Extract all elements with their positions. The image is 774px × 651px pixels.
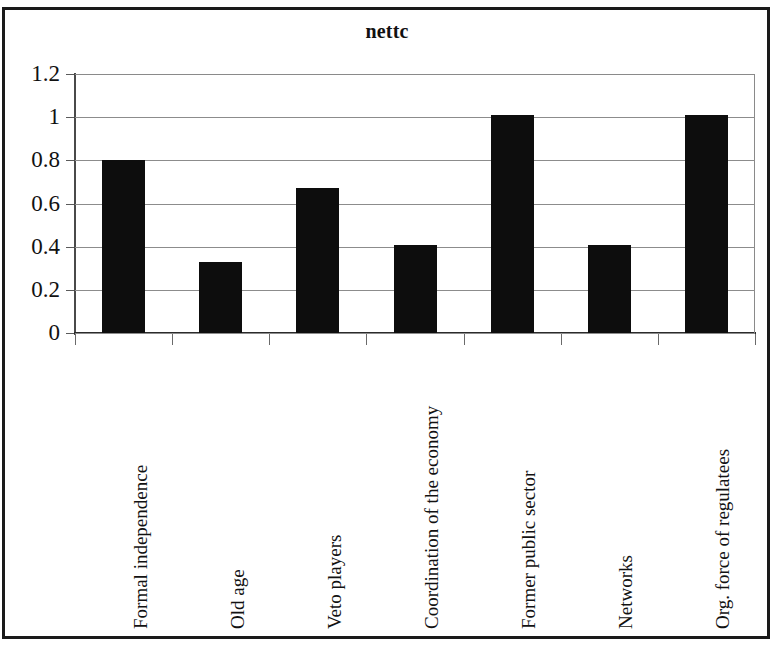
x-tick-mark — [269, 334, 270, 345]
plot-area — [75, 74, 755, 333]
x-tick-mark — [75, 334, 76, 345]
y-tick-label: 1.2 — [0, 62, 60, 85]
chart-title: nettc — [0, 20, 774, 43]
y-tick-label: 0 — [0, 321, 60, 344]
bar — [588, 245, 631, 333]
y-tick-label: 0.2 — [0, 278, 60, 301]
x-tick-mark — [658, 334, 659, 345]
y-tick-label: 0.6 — [0, 192, 60, 215]
bar — [199, 262, 242, 333]
x-axis-label: Org. force of regulatees — [713, 449, 732, 629]
bar — [685, 115, 728, 333]
x-tick-mark — [755, 334, 756, 345]
bar — [296, 188, 339, 333]
x-axis-label: Veto players — [325, 535, 344, 629]
x-tick-mark — [561, 334, 562, 345]
gridline — [75, 204, 755, 205]
gridline — [75, 74, 755, 75]
x-axis-label: Former public sector — [519, 471, 538, 629]
y-tick-label: 0.8 — [0, 148, 60, 171]
x-axis-label: Networks — [616, 555, 635, 629]
y-tick-label: 1 — [0, 105, 60, 128]
x-axis-label: Formal independence — [131, 465, 150, 629]
y-tick-label: 0.4 — [0, 235, 60, 258]
bar — [102, 160, 145, 333]
gridline — [75, 117, 755, 118]
bar — [394, 245, 437, 333]
x-tick-mark — [366, 334, 367, 345]
x-axis-label: Coordination of the economy — [422, 406, 441, 629]
bar — [491, 115, 534, 333]
x-tick-mark — [172, 334, 173, 345]
x-axis-label: Old age — [228, 569, 247, 629]
gridline — [75, 333, 755, 334]
gridline — [75, 160, 755, 161]
x-tick-mark — [464, 334, 465, 345]
